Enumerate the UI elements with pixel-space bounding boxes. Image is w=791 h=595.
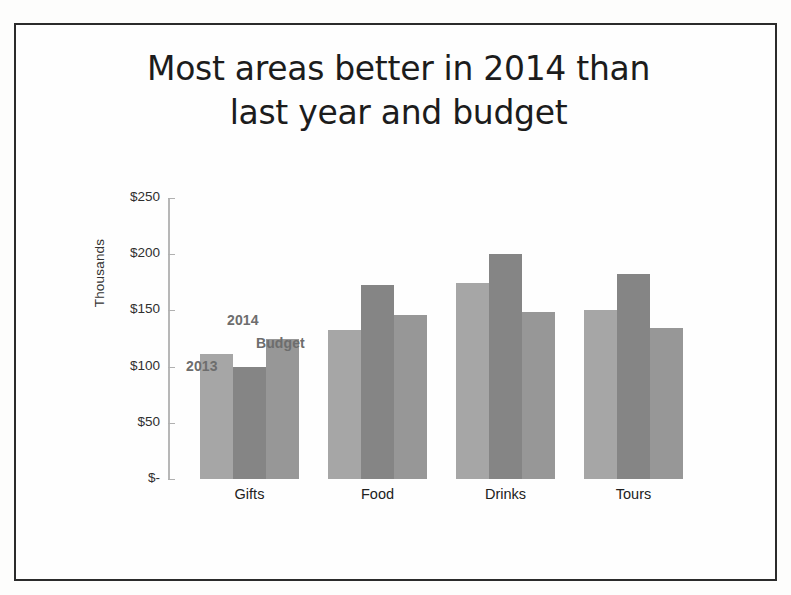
- y-axis-tick-label: $100: [106, 358, 160, 373]
- bar-groups: GiftsFoodDrinksTours20132014Budget: [170, 198, 680, 479]
- x-axis-category-label: Gifts: [200, 486, 299, 502]
- y-axis-tick: [168, 310, 175, 311]
- y-axis-tick-label: $-: [106, 470, 160, 485]
- plot-area: $250$200$150$100$50$- GiftsFoodDrinksTou…: [168, 198, 680, 478]
- y-axis-tick-labels: $250$200$150$100$50$-: [104, 198, 160, 479]
- series-annotation-2014: 2014: [227, 312, 259, 328]
- bar-tours-2013[interactable]: [584, 310, 617, 479]
- y-axis-tick: [168, 198, 175, 199]
- y-axis-tick: [168, 254, 175, 255]
- bar-gifts-budget[interactable]: [266, 339, 299, 480]
- bar-group-drinks: Drinks: [456, 198, 555, 479]
- bar-group-food: Food: [328, 198, 427, 479]
- y-axis-tick-label: $50: [106, 414, 160, 429]
- bar-food-2014[interactable]: [361, 285, 394, 479]
- x-axis-category-label: Tours: [584, 486, 683, 502]
- bar-tours-budget[interactable]: [650, 328, 683, 479]
- bar-group-tours: Tours: [584, 198, 683, 479]
- bar-drinks-2013[interactable]: [456, 283, 489, 479]
- series-annotation-2013: 2013: [186, 358, 218, 374]
- bar-tours-2014[interactable]: [617, 274, 650, 479]
- y-axis-tick: [168, 479, 175, 480]
- slide-page: Most areas better in 2014 than last year…: [0, 0, 791, 595]
- x-axis-category-label: Food: [328, 486, 427, 502]
- y-axis-tick: [168, 423, 175, 424]
- y-axis-tick-label: $200: [106, 245, 160, 260]
- bar-chart: Thousands $250$200$150$100$50$- GiftsFoo…: [16, 25, 779, 583]
- y-axis-title: Thousands: [92, 93, 107, 213]
- y-axis-tick-label: $150: [106, 301, 160, 316]
- y-axis-tick-label: $250: [106, 189, 160, 204]
- series-annotation-budget: Budget: [256, 335, 305, 351]
- bar-gifts-2014[interactable]: [233, 367, 266, 479]
- bar-food-budget[interactable]: [394, 315, 427, 479]
- y-axis-tick: [168, 367, 175, 368]
- bar-drinks-budget[interactable]: [522, 312, 555, 479]
- bar-food-2013[interactable]: [328, 330, 361, 479]
- slide-frame: Most areas better in 2014 than last year…: [14, 23, 777, 581]
- bar-drinks-2014[interactable]: [489, 254, 522, 479]
- x-axis-category-label: Drinks: [456, 486, 555, 502]
